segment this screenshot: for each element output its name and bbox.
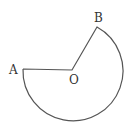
sector-diagram: A O B (0, 0, 135, 129)
label-b: B (94, 11, 103, 25)
label-a: A (8, 63, 18, 77)
label-o: O (69, 73, 79, 87)
